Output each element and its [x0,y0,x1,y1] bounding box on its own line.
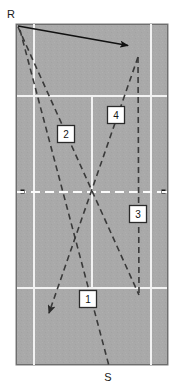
receiver-label: R [7,8,15,20]
diagram-canvas: 2 4 3 1 R S [0,0,181,391]
shot-label-text: 1 [85,294,91,305]
court [16,24,168,365]
tennis-court-shot-diagram: 2 4 3 1 R S [0,0,181,391]
shot-label-2: 2 [58,126,75,143]
server-label: S [104,371,111,383]
shot-label-text: 4 [113,110,119,121]
shot-label-3: 3 [130,206,147,223]
shot-label-text: 2 [63,129,69,140]
shot-label-1: 1 [80,291,97,308]
shot-label-text: 3 [135,209,141,220]
shot-label-4: 4 [108,107,125,124]
